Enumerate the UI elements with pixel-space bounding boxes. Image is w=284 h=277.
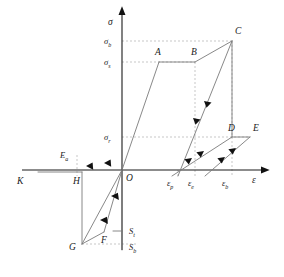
point-label-D: D <box>228 124 235 134</box>
annotation-Sb: Sb <box>129 243 136 254</box>
annotation-St-sub: t <box>133 232 135 238</box>
curve-paths <box>38 41 250 250</box>
point-label-O: O <box>126 174 133 184</box>
x-tick-eps-p-sub: p <box>170 184 173 190</box>
y-tick-sigma-s-sub: s <box>108 63 110 69</box>
annotation-Ea-sub: a <box>65 156 68 162</box>
y-tick-sigma-s: σs <box>104 58 111 69</box>
arrow-HK-a <box>104 160 111 167</box>
point-label-K: K <box>17 177 23 187</box>
point-label-G: G <box>69 243 76 253</box>
segment-BC <box>195 41 232 62</box>
y-tick-sigma-r: σr <box>104 133 111 144</box>
annotation-Ea: Ea <box>60 151 68 162</box>
point-label-A: A <box>155 48 161 58</box>
arrow-epsp-D-a <box>196 151 204 158</box>
y-tick-sigma-b: σb <box>104 37 111 48</box>
point-label-E: E <box>253 124 259 134</box>
segment-reload-to-C <box>178 41 232 176</box>
stress-strain-diagram: σ ε σb σs σr εp εe εb O A B C D E F G H … <box>0 0 284 277</box>
x-tick-eps-b: εb <box>222 179 228 190</box>
point-label-B: B <box>191 48 197 58</box>
arrow-reload-upper <box>204 101 212 108</box>
x-axis-label: ε <box>252 176 256 186</box>
arrow-HK-b <box>86 163 93 170</box>
arrow-OF-lower <box>100 217 108 224</box>
axes <box>22 14 262 250</box>
x-tick-eps-b-sub: b <box>225 184 228 190</box>
y-axis-label: σ <box>108 18 113 28</box>
annotation-St: St <box>129 227 135 238</box>
arrow-epsb-E-b <box>217 157 225 164</box>
y-tick-sigma-b-sub: b <box>108 42 111 48</box>
x-tick-eps-e-sub: e <box>191 184 194 190</box>
point-label-F: F <box>101 236 107 246</box>
segment-OA <box>122 62 159 170</box>
x-tick-eps-p: εp <box>167 179 173 190</box>
annotation-Sb-sub: b <box>133 248 136 254</box>
direction-arrows <box>86 101 236 224</box>
point-label-C: C <box>235 27 241 37</box>
y-tick-sigma-r-sub: r <box>108 138 110 144</box>
diagram-canvas <box>0 0 284 277</box>
arrow-epsb-E-a <box>228 148 236 155</box>
x-tick-eps-e: εe <box>188 179 194 190</box>
point-label-H: H <box>73 177 80 187</box>
